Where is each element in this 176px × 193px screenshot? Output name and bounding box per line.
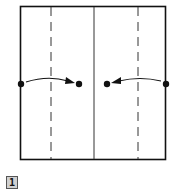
right-edge-dot (163, 81, 169, 87)
right-target-dot (104, 81, 110, 87)
left-target-dot (76, 81, 82, 87)
fold-diagram (0, 0, 176, 193)
left-edge-dot (18, 81, 24, 87)
step-number-badge: 1 (6, 176, 18, 189)
paper-square (21, 7, 166, 160)
